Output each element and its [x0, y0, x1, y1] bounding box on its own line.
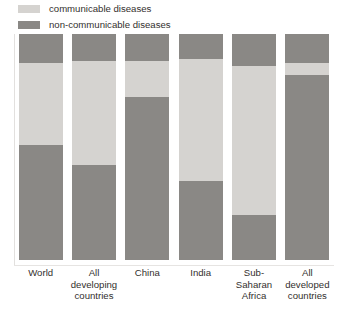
legend-item-non-communicable: non-communicable diseases	[18, 18, 248, 32]
bar-segment-injuries_top_dark	[285, 34, 329, 63]
bar-segment-communicable	[285, 63, 329, 74]
bar-segment-non_communicable	[285, 75, 329, 260]
x-axis-line	[14, 265, 334, 266]
bar-segment-communicable	[125, 61, 169, 97]
bar-all-developing-countries	[72, 34, 116, 260]
bar-segment-communicable	[232, 66, 276, 215]
legend-swatch-icon-communicable	[18, 5, 40, 13]
bar-india	[179, 34, 223, 260]
legend-swatch-icon-non-communicable	[18, 21, 40, 29]
bar-china	[125, 34, 169, 260]
bar-segment-injuries_top_dark	[125, 34, 169, 61]
bar-segment-non_communicable	[232, 215, 276, 260]
bar-all-developed-countries	[285, 34, 329, 260]
chart-legend: communicable diseases non-communicable d…	[18, 2, 248, 34]
bar-segment-non_communicable	[179, 181, 223, 260]
bar-world	[19, 34, 63, 260]
bar-segment-injuries_top_dark	[72, 34, 116, 61]
bar-segment-communicable	[19, 63, 63, 144]
x-axis-label-line: developing	[61, 279, 127, 291]
x-axis-label-all-developed-countries: Alldevelopedcountries	[274, 267, 340, 302]
bar-sub-saharan-africa	[232, 34, 276, 260]
bar-segment-non_communicable	[125, 97, 169, 260]
bar-segment-injuries_top_dark	[179, 34, 223, 59]
x-axis-label-line: All	[274, 267, 340, 279]
x-axis-tick-labels: WorldAlldevelopingcountriesChinaIndiaSub…	[14, 267, 334, 311]
x-axis-label-line: countries	[274, 290, 340, 302]
disease-burden-stacked-bar-chart: communicable diseases non-communicable d…	[0, 0, 345, 311]
legend-item-communicable: communicable diseases	[18, 2, 248, 16]
bar-segment-communicable	[179, 59, 223, 181]
bar-segment-communicable	[72, 61, 116, 165]
legend-label-non-communicable: non-communicable diseases	[49, 19, 171, 31]
plot-area	[14, 34, 334, 260]
x-axis-label-line: countries	[61, 290, 127, 302]
bar-segment-injuries_top_dark	[232, 34, 276, 66]
bar-segment-injuries_top_dark	[19, 34, 63, 63]
x-axis-label-line: developed	[274, 279, 340, 291]
bar-segment-non_communicable	[19, 145, 63, 260]
legend-label-communicable: communicable diseases	[49, 3, 151, 15]
bar-segment-non_communicable	[72, 165, 116, 260]
